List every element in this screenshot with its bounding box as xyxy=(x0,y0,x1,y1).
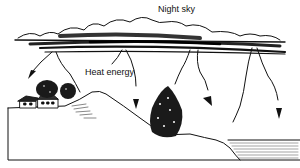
water xyxy=(230,143,298,158)
cloud-layer xyxy=(15,17,285,54)
label-heat-energy: Heat energy xyxy=(85,67,134,77)
diagram-canvas: Night sky Heat energy xyxy=(0,0,300,168)
label-night-sky: Night sky xyxy=(158,4,195,14)
hill-shading xyxy=(72,104,96,118)
diagram-illustration xyxy=(0,0,300,168)
trees xyxy=(36,80,182,137)
